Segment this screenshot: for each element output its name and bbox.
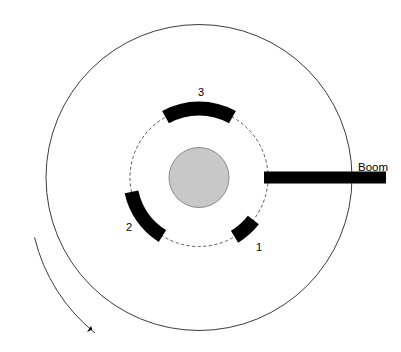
rotor-diagram-canvas: 1 2 3 Boom <box>0 0 401 352</box>
blade-segment-3 <box>162 102 236 124</box>
blade-segment-2 <box>125 190 166 242</box>
hub-circle <box>169 148 229 208</box>
blade-segment-3-label: 3 <box>198 86 204 98</box>
boom-label: Boom <box>358 161 388 173</box>
boom-bar <box>264 172 386 184</box>
blade-segment-2-label: 2 <box>126 221 132 233</box>
blade-segment-1-label: 1 <box>256 241 262 253</box>
blade-segment-1 <box>231 216 259 243</box>
rotor-diagram: 1 2 3 Boom <box>0 0 401 352</box>
